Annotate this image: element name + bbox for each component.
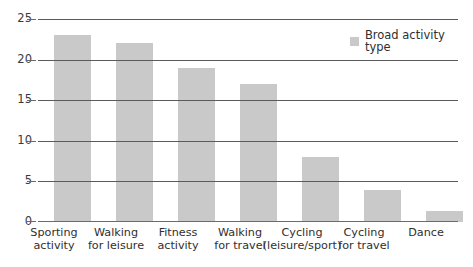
axis-baseline xyxy=(38,221,458,222)
gridline-25 xyxy=(38,19,458,20)
gridline-5 xyxy=(38,181,458,182)
bar-cycling-leisure-sport xyxy=(302,157,339,222)
legend-swatch-icon xyxy=(350,37,359,46)
bar-cycling-for-travel xyxy=(364,190,401,223)
bar-walking-for-leisure xyxy=(116,43,153,222)
legend-label: Broad activity type xyxy=(365,30,473,53)
tick-stub-25 xyxy=(27,19,36,20)
bar-chart: 25 20 15 10 5 0 Broad activity type Spor xyxy=(0,0,473,267)
tick-stub-15 xyxy=(27,100,36,101)
bar-walking-for-travel xyxy=(240,84,277,222)
x-label-line-2: for travel xyxy=(326,239,402,252)
tick-stub-20 xyxy=(27,60,36,61)
tick-stub-0 xyxy=(27,221,36,222)
x-label-line-1: Dance xyxy=(388,226,464,239)
gridline-10 xyxy=(38,141,458,142)
bar-fitness-activity xyxy=(178,68,215,222)
tick-stub-10 xyxy=(27,141,36,142)
gridline-20 xyxy=(38,60,458,61)
x-tick-label-dance: Dance xyxy=(388,226,464,239)
gridline-15 xyxy=(38,100,458,101)
legend: Broad activity type xyxy=(350,30,473,53)
bar-sporting-activity xyxy=(54,35,91,222)
tick-stub-5 xyxy=(27,181,36,182)
